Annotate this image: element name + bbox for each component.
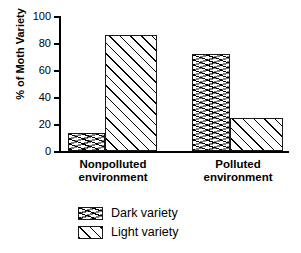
legend-swatch-dark-variety	[78, 207, 103, 220]
y-tick-60	[54, 70, 60, 72]
bar-nonpolluted-dark-variety	[68, 133, 105, 151]
y-tick-100	[54, 16, 60, 18]
y-tick-40	[54, 97, 60, 99]
y-tick-0	[54, 151, 60, 153]
bar-polluted-dark-variety	[192, 54, 230, 151]
y-axis-line	[59, 16, 61, 153]
y-tick-label-80: 80	[21, 38, 51, 49]
bar-polluted-light-variety	[230, 118, 283, 151]
x-axis-label-polluted-line2: environment	[183, 171, 293, 184]
y-tick-label-60: 60	[21, 65, 51, 76]
bar-nonpolluted-light-variety	[105, 35, 157, 151]
x-axis-label-nonpolluted-line2: environment	[58, 171, 168, 184]
x-axis-label-polluted: Polluted environment	[183, 158, 293, 184]
legend-swatch-light-variety	[78, 226, 103, 239]
plot-area	[59, 16, 289, 153]
x-axis-line	[59, 151, 289, 153]
legend-item-light-variety: Light variety	[78, 223, 178, 242]
y-tick-label-40: 40	[21, 92, 51, 103]
x-axis-label-nonpolluted-line1: Nonpolluted	[58, 158, 168, 171]
x-axis-label-polluted-line1: Polluted	[183, 158, 293, 171]
bar-chart: % of Moth Variety 100 80 60 40 20 0 Nonp…	[0, 0, 301, 253]
y-tick-20	[54, 124, 60, 126]
y-tick-80	[54, 43, 60, 45]
x-axis-label-nonpolluted: Nonpolluted environment	[58, 158, 168, 184]
y-tick-label-100: 100	[21, 11, 51, 22]
legend-label-light-variety: Light variety	[111, 226, 178, 239]
legend-item-dark-variety: Dark variety	[78, 204, 178, 223]
y-tick-label-20: 20	[21, 119, 51, 130]
legend: Dark variety Light variety	[78, 204, 178, 242]
y-tick-label-0: 0	[21, 146, 51, 157]
legend-label-dark-variety: Dark variety	[111, 207, 178, 220]
